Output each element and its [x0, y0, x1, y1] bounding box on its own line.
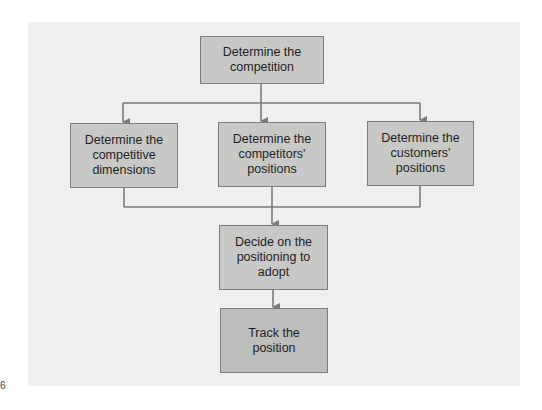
node-label: Decide on the positioning to adopt	[226, 235, 321, 280]
node-track-position: Track the position	[220, 308, 328, 373]
node-customers-positions: Determine the customers' positions	[367, 121, 474, 186]
node-label: Determine the competitive dimensions	[77, 133, 171, 178]
node-decide-positioning: Decide on the positioning to adopt	[219, 225, 328, 290]
node-competitive-dimensions: Determine the competitive dimensions	[70, 123, 178, 188]
node-determine-competition: Determine the competition	[200, 36, 324, 84]
node-label: Track the position	[227, 326, 321, 356]
node-label: Determine the competitors' positions	[225, 132, 319, 177]
page-number: 6	[0, 380, 6, 391]
node-label: Determine the competition	[207, 45, 317, 75]
node-competitors-positions: Determine the competitors' positions	[218, 122, 326, 187]
node-label: Determine the customers' positions	[374, 131, 467, 176]
